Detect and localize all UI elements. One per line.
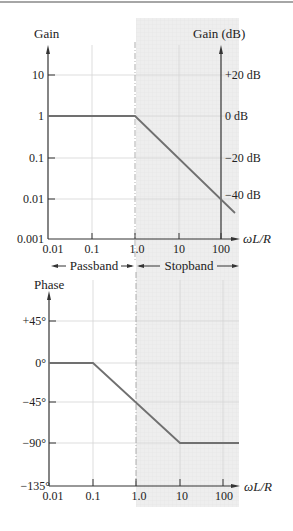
phase-y-label: Phase bbox=[34, 277, 65, 292]
phase-x-tick-100: 100 bbox=[215, 489, 233, 503]
gain-x-tick-100: 100 bbox=[212, 242, 230, 256]
gain-db-label: Gain (dB) bbox=[193, 26, 245, 41]
gain-tick-0.01: 0.01 bbox=[23, 192, 44, 206]
phase-x-tick-10: 10 bbox=[176, 489, 188, 503]
db-tick-20: +20 dB bbox=[225, 68, 261, 82]
phase-x-label: ωL/R bbox=[244, 479, 272, 494]
phase-x-tick-1.0: 1.0 bbox=[132, 489, 147, 503]
phase-x-tick-0.01: 0.01 bbox=[43, 489, 64, 503]
db-tick-0: 0 dB bbox=[225, 109, 248, 123]
db-tick-minus40: −40 dB bbox=[225, 188, 261, 202]
gain-x-tick-1.0: 1.0 bbox=[130, 242, 145, 256]
gain-x-tick-10: 10 bbox=[173, 242, 185, 256]
phase-x-tick-0.1: 0.1 bbox=[86, 489, 101, 503]
gain-x-label: ωL/R bbox=[243, 231, 271, 246]
phase-tick-minus90: −90° bbox=[22, 436, 46, 450]
gain-tick-1: 1 bbox=[38, 109, 44, 123]
gain-tick-0.001: 0.001 bbox=[17, 232, 44, 246]
gain-tick-10: 10 bbox=[32, 68, 44, 82]
gain-y-axis-arrow bbox=[46, 45, 50, 54]
phase-y-axis-arrow bbox=[47, 291, 51, 300]
phase-tick-0: 0° bbox=[35, 356, 46, 370]
passband-label: Passband bbox=[70, 258, 119, 273]
db-tick-minus20: −20 dB bbox=[225, 151, 261, 165]
gain-x-tick-0.1: 0.1 bbox=[85, 242, 100, 256]
phase-tick-minus45: −45° bbox=[22, 395, 46, 409]
gain-x-tick-0.01: 0.01 bbox=[43, 242, 64, 256]
gain-tick-0.1: 0.1 bbox=[29, 151, 44, 165]
phase-tick-plus45: +45° bbox=[22, 314, 46, 328]
stopband-label: Stopband bbox=[164, 258, 214, 273]
bode-plot-figure: Gain Gain (dB) 10 1 0.1 0.01 0.001 +20 d… bbox=[0, 0, 293, 531]
gain-y-label: Gain bbox=[34, 26, 60, 41]
